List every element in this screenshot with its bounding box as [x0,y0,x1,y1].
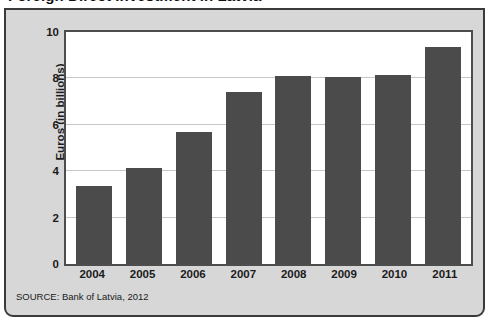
y-axis-tick-label: 10 [46,26,59,38]
bar-slot [418,32,468,264]
x-axis-tick-label: 2006 [168,268,218,280]
chart-title-strip: Foreign Direct Investment in Latvia [0,0,494,8]
y-axis-tick-label: 6 [53,119,59,131]
bar-slot [69,32,119,264]
y-axis-tick-label: 2 [53,212,59,224]
bar-2005 [126,168,162,264]
x-axis-tick-label: 2007 [218,268,268,280]
bar-2004 [76,186,112,264]
bar-2008 [275,76,311,264]
bar-2011 [425,47,461,264]
x-axis-tick-label: 2009 [319,268,369,280]
x-axis-tick-label: 2004 [67,268,117,280]
chart-panel: Euros (in billions) 0246810 200420052006… [4,8,485,317]
y-axis-tick-label: 4 [53,165,59,177]
bar-slot [219,32,269,264]
plot-area: 0246810 [64,30,473,266]
x-axis-tick-label: 2008 [269,268,319,280]
page-title: Foreign Direct Investment in Latvia [8,0,262,4]
source-note: SOURCE: Bank of Latvia, 2012 [16,291,149,302]
bar-slot [318,32,368,264]
bar-series [66,32,471,264]
x-axis-tick-label: 2011 [420,268,470,280]
bar-2009 [325,77,361,264]
bar-slot [269,32,319,264]
bar-2007 [226,92,262,264]
x-axis-tick-label: 2010 [369,268,419,280]
y-axis-tick-label: 0 [53,258,59,270]
x-axis-tick-labels: 20042005200620072008200920102011 [64,268,473,280]
bar-slot [169,32,219,264]
x-axis-tick-label: 2005 [118,268,168,280]
bar-2010 [375,75,411,264]
bar-2006 [176,132,212,264]
bar-slot [368,32,418,264]
y-axis-tick-label: 8 [53,72,59,84]
bar-slot [119,32,169,264]
